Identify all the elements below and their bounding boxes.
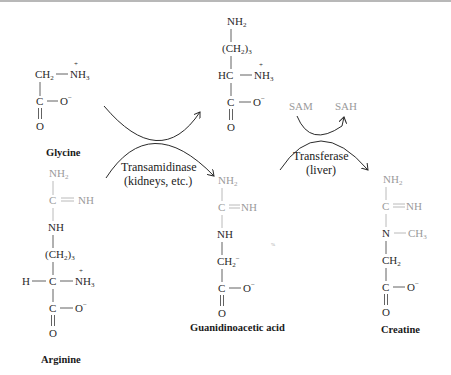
gaa-oxygen: O−	[243, 281, 255, 294]
gaa-imine-nh: NH	[241, 201, 257, 213]
glycine-label: Glycine	[46, 147, 81, 158]
creatine-imine-nh: NH	[406, 200, 422, 212]
sam-sah-arc-arrow	[297, 116, 344, 135]
gaa-ch2: CH2−	[217, 255, 240, 269]
glycine-charge-plus: +	[74, 60, 78, 68]
creatine-structure: NH2 C NH N CH3 CH2 C O− O Creatine	[381, 173, 427, 335]
transferase-label: Transferase	[293, 149, 349, 163]
upper-arc-arrow	[104, 106, 200, 141]
arginine-nh2: NH2	[49, 167, 69, 181]
gaa-nh2: NH2	[218, 174, 238, 188]
ornithine-carbon: C	[227, 96, 234, 108]
glycine-oxygen: O−	[60, 94, 72, 107]
ornithine-structure: NH2 (CH2)3 HC + NH3 C O− O	[218, 15, 274, 133]
creatine-nh2: NH2	[383, 173, 403, 187]
creatine-label: Creatine	[381, 324, 420, 335]
arginine-amine: NH3	[75, 275, 95, 289]
creatine-ch2: CH2	[382, 254, 401, 268]
ornithine-carbonyl-o: O	[227, 121, 235, 133]
arginine-charge-plus: +	[79, 267, 83, 275]
arginine-oxygen: O−	[75, 301, 87, 314]
ornithine-oxygen: O−	[253, 95, 265, 108]
guanidinoacetic-acid-label: Guanidinoacetic acid	[190, 322, 285, 333]
transamidinase-arrows: Transamidinase (kidneys, etc.)	[104, 106, 214, 188]
gaa-carbonyl-o: O	[218, 307, 226, 319]
arginine-structure: NH2 C NH NH (CH2)3 H C + NH3 C O− O Argi…	[22, 167, 95, 365]
sah-label: SAH	[335, 100, 357, 112]
ornithine-hc: HC	[218, 69, 233, 81]
stray-mark: %	[271, 242, 275, 247]
arginine-ch2-chain: (CH2)3	[45, 248, 75, 262]
sam-label: SAM	[289, 100, 313, 112]
creatine-c-imine: C	[382, 200, 389, 212]
creatine-oxygen: O−	[407, 280, 419, 293]
creatine-synthesis-diagram: CH2 + NH3 C O− O Glycine NH2 C NH NH (CH…	[0, 0, 451, 375]
transferase-arrows: SAM SAH Transferase (liver)	[280, 100, 368, 177]
gaa-carbon: C	[218, 282, 225, 294]
arginine-h: H	[22, 275, 30, 287]
ornithine-charge-plus: +	[259, 61, 263, 69]
ornithine-amine: NH3	[254, 69, 274, 83]
arginine-nh: NH	[48, 221, 64, 233]
gaa-nh: NH	[217, 228, 233, 240]
arginine-label: Arginine	[41, 354, 81, 365]
guanidinoacetic-acid-structure: NH2 C NH NH CH2− C O− O Guanidinoacetic …	[190, 174, 285, 333]
glycine-amine: NH3	[70, 68, 90, 82]
arginine-carbonyl-o: O	[49, 327, 57, 339]
glycine-structure: CH2 + NH3 C O− O Glycine	[35, 60, 90, 158]
transferase-location: (liver)	[306, 163, 336, 177]
arginine-c-imine: C	[49, 194, 56, 206]
glycine-ch2: CH2	[35, 68, 54, 82]
ornithine-nh2: NH2	[227, 15, 247, 29]
creatine-methyl: CH3	[408, 227, 427, 241]
creatine-n: N	[382, 227, 390, 239]
arginine-alpha-c: C	[49, 275, 56, 287]
creatine-carbonyl-o: O	[382, 306, 390, 318]
transamidinase-label: Transamidinase	[121, 160, 197, 174]
gaa-c-imine: C	[218, 201, 225, 213]
transamidinase-location: (kidneys, etc.)	[124, 174, 192, 188]
arginine-imine-nh: NH	[78, 194, 94, 206]
arginine-carbon: C	[49, 302, 56, 314]
glycine-carbon: C	[36, 95, 43, 107]
ornithine-ch2-chain: (CH2)3	[222, 42, 252, 56]
creatine-carbon: C	[382, 281, 389, 293]
glycine-carbonyl-o: O	[36, 120, 44, 132]
